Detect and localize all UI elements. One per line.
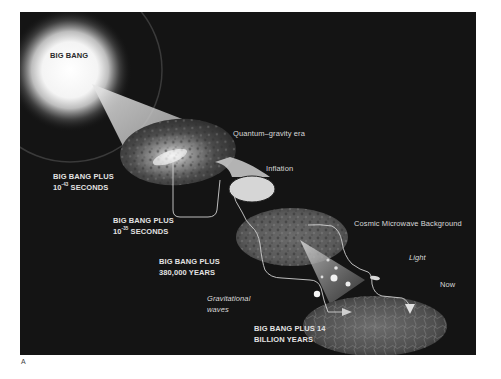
time-label-line1: BIG BANG PLUS 14	[254, 324, 326, 335]
time-label-line2: 10-43 SECONDS	[53, 183, 114, 194]
cmb-label: Cosmic Microwave Background	[354, 219, 462, 230]
disk-cmb	[236, 208, 348, 266]
time-label-cmb: BIG BANG PLUS 380,000 YEARS	[159, 257, 220, 278]
cosmic-timeline-diagram: BIG BANG Quantum–gravity era Inflation B…	[20, 12, 476, 355]
quantum-gravity-era-label: Quantum–gravity era	[233, 129, 305, 140]
inflation-label: Inflation	[266, 164, 293, 175]
time-label-quantum-gravity: BIG BANG PLUS 10-43 SECONDS	[53, 172, 114, 193]
time-label-line1: BIG BANG PLUS	[159, 257, 220, 268]
figure-panel-letter: A	[21, 358, 26, 365]
now-label: Now	[440, 280, 455, 291]
disk-inflation	[229, 176, 275, 202]
time-label-now: BIG BANG PLUS 14 BILLION YEARS	[254, 324, 326, 345]
time-label-line2: 380,000 YEARS	[159, 268, 220, 279]
big-bang-label: BIG BANG	[50, 51, 88, 62]
gravitational-waves-line1: Gravitational	[207, 294, 250, 305]
time-label-inflation: BIG BANG PLUS 10-35 SECONDS	[113, 216, 174, 237]
light-label: Light	[409, 253, 426, 264]
time-label-line2: BILLION YEARS	[254, 335, 326, 346]
time-label-line2: 10-35 SECONDS	[113, 227, 174, 238]
gravitational-waves-label: Gravitational waves	[207, 294, 250, 315]
gravitational-waves-line2: waves	[207, 305, 250, 316]
